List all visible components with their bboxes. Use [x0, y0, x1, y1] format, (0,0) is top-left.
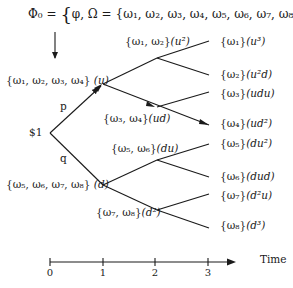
phi-zero: Φ₀ — [28, 7, 43, 21]
node-path: (u²) — [171, 35, 190, 47]
node-set: {ω₃, ω₄} — [103, 112, 149, 124]
time-axis-label: Time — [260, 253, 287, 265]
node-set: {ω₇, ω₈} — [96, 206, 142, 218]
edge-u-uu — [103, 58, 157, 84]
arrow-head-leaf4 — [199, 119, 209, 125]
leaf-5: {ω₅}(du²) — [220, 137, 272, 149]
prob-down: q — [60, 152, 67, 164]
time-tick-3: 3 — [205, 267, 211, 278]
leaf-8: {ω₈}(d³) — [220, 219, 265, 231]
leaf-4: {ω₄}(ud²) — [220, 117, 272, 129]
node-t2-du: {ω₅, ω₆}(du) — [111, 142, 178, 154]
node-set: {ω₁, ω₂, ω₃, ω₄} — [6, 74, 90, 86]
leaf-2: {ω₂}(u²d) — [220, 68, 272, 80]
binomial-tree-diagram: Φ₀ = {φ, Ω = {ω₁, ω₂, ω₃, ω₄, ω₅, ω₆, ω₇… — [0, 0, 293, 288]
leaf-7: {ω₇}(d²u) — [220, 189, 272, 201]
node-path: (d²) — [142, 206, 161, 218]
sample-space: φ, Ω = {ω₁, ω₂, ω₃, ω₄, ω₅, ω₆, ω₇, ω₈} — [72, 7, 293, 21]
edge-uu-leaf2 — [157, 58, 209, 75]
leaf-1: {ω₁}(u³) — [220, 35, 265, 47]
node-t2-ud: {ω₃, ω₄}(ud) — [103, 112, 170, 124]
leaf-6: {ω₆}(dud) — [220, 170, 275, 182]
open-brace: { — [60, 4, 71, 25]
node-path: (ud) — [149, 112, 171, 124]
root-label: $1 — [29, 126, 42, 138]
time-tick-0: 0 — [47, 267, 53, 278]
node-path: (u) — [94, 74, 109, 86]
node-path: (d) — [94, 178, 109, 190]
node-t1-up: {ω₁, ω₂, ω₃, ω₄} (u) — [6, 74, 109, 86]
node-set: {ω₅, ω₆} — [111, 142, 157, 154]
equals-sign: = — [46, 7, 56, 21]
time-tick-2: 2 — [152, 267, 158, 278]
leaf-3: {ω₃}(udu) — [220, 87, 275, 99]
edge-root-up — [50, 86, 101, 133]
edge-dd-leaf7 — [157, 194, 209, 210]
edge-du-leaf6 — [157, 160, 209, 177]
filtration-title: Φ₀ = {φ, Ω = {ω₁, ω₂, ω₃, ω₄, ω₅, ω₆, ω₇… — [28, 4, 293, 25]
arrow-head-time — [227, 259, 236, 266]
node-t2-uu: {ω₁, ω₂}(u²) — [125, 35, 190, 47]
edge-ud-leaf3 — [157, 92, 209, 107]
edge-d-du — [103, 160, 157, 185]
edge-dd-leaf8 — [157, 210, 209, 228]
node-set: {ω₁, ω₂} — [125, 35, 171, 47]
node-set: {ω₅, ω₆, ω₇, ω₈} — [6, 178, 90, 190]
prob-up: p — [60, 100, 67, 112]
time-tick-1: 1 — [100, 267, 106, 278]
node-t2-dd: {ω₇, ω₈}(d²) — [96, 206, 161, 218]
node-t1-down: {ω₅, ω₆, ω₇, ω₈} (d) — [6, 178, 109, 190]
node-path: (du) — [157, 142, 179, 154]
